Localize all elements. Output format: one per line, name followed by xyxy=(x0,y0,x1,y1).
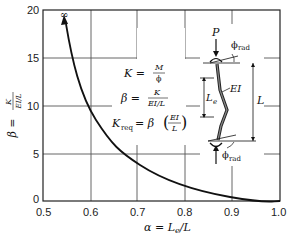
svg-text:rad: rad xyxy=(229,155,242,163)
svg-text:= β: = β xyxy=(135,117,154,130)
svg-text:ϕ: ϕ xyxy=(231,39,238,50)
svg-text:0.5: 0.5 xyxy=(36,206,51,218)
svg-text:L: L xyxy=(171,124,177,133)
svg-text:): ) xyxy=(181,113,187,132)
svg-text:5: 5 xyxy=(33,148,39,160)
svg-text:P: P xyxy=(211,26,220,39)
svg-text:K: K xyxy=(153,88,161,97)
svg-text:K: K xyxy=(111,117,121,130)
svg-text:1.0: 1.0 xyxy=(271,206,286,218)
svg-text:req: req xyxy=(121,124,133,132)
svg-text:0: 0 xyxy=(33,193,39,205)
x-ticks: 0.5 0.6 0.7 0.8 0.9 1.0 xyxy=(36,206,286,218)
svg-text:rad: rad xyxy=(238,44,251,52)
svg-text:20: 20 xyxy=(27,4,39,16)
infinity-label: ∞ xyxy=(60,9,68,20)
svg-text:(: ( xyxy=(163,113,169,132)
svg-text:K =: K = xyxy=(123,67,145,80)
svg-text:α = Le/L: α = Le/L xyxy=(144,221,191,235)
svg-text:ϕ: ϕ xyxy=(156,74,162,83)
svg-text:EI/L: EI/L xyxy=(147,99,165,108)
y-ticks: 20 15 10 5 0 xyxy=(27,4,39,205)
chart: ∞ 20 15 10 5 0 0.5 0.6 0.7 0.8 0.9 1.0 α… xyxy=(0,0,292,236)
svg-text:0.9: 0.9 xyxy=(224,206,239,218)
svg-text:EI: EI xyxy=(229,83,242,94)
y-axis-label: β = K EI/L xyxy=(4,92,23,139)
svg-text:EI/L: EI/L xyxy=(15,93,23,109)
svg-text:ϕ: ϕ xyxy=(222,149,229,160)
svg-text:β =: β = xyxy=(6,118,19,138)
svg-text:0.8: 0.8 xyxy=(177,206,192,218)
svg-text:K: K xyxy=(4,98,13,106)
svg-text:M: M xyxy=(154,63,164,72)
svg-text:L: L xyxy=(205,92,213,103)
svg-text:0.6: 0.6 xyxy=(83,206,98,218)
svg-text:10: 10 xyxy=(27,100,39,112)
svg-text:0.7: 0.7 xyxy=(130,206,145,218)
svg-text:L: L xyxy=(256,94,264,107)
formula-panel-top xyxy=(137,28,185,59)
x-axis-label: α = Le/L xyxy=(144,221,191,235)
svg-text:EI: EI xyxy=(169,113,180,122)
svg-text:15: 15 xyxy=(27,52,39,64)
svg-text:β =: β = xyxy=(120,92,140,105)
svg-text:e: e xyxy=(213,98,217,106)
